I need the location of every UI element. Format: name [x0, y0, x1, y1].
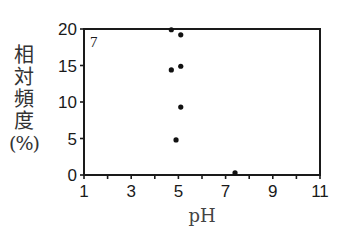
data-point: [232, 170, 237, 175]
x-tick-label: 7: [221, 182, 230, 201]
y-tick-label: 20: [58, 20, 77, 39]
plot-frame: [84, 29, 320, 175]
x-tick-label: 5: [174, 182, 183, 201]
data-point: [173, 137, 178, 142]
data-points: [169, 27, 238, 175]
y-tick-label: 10: [58, 93, 77, 112]
x-tick-label: 11: [311, 182, 329, 201]
y-tick-labels: 05101520: [58, 20, 77, 185]
data-point: [178, 32, 183, 37]
data-point: [169, 67, 174, 72]
x-tick-label: 9: [268, 182, 277, 201]
data-point: [178, 105, 183, 110]
data-point: [178, 64, 183, 69]
x-tick-label: 1: [79, 182, 88, 201]
y-tick-label: 0: [68, 166, 77, 185]
data-point: [169, 27, 174, 32]
axis-ticks: [80, 29, 320, 179]
x-tick-labels: 1357911: [79, 182, 329, 201]
y-tick-label: 15: [58, 57, 77, 76]
x-axis-label: pH: [188, 205, 215, 226]
x-tick-label: 3: [126, 182, 135, 201]
y-tick-label: 5: [68, 130, 77, 149]
scatter-chart: 7 05101520 1357911 pH: [0, 0, 347, 234]
panel-label: 7: [90, 34, 98, 50]
